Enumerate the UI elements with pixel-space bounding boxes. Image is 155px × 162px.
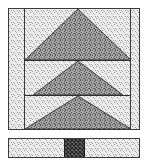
crosshatch-block [64, 139, 85, 158]
main-panel [9, 9, 140, 130]
figure-root: Tiered triangle block pattern Halftone l… [0, 0, 155, 162]
border-strip [9, 139, 140, 158]
pattern-diagram [0, 0, 155, 162]
